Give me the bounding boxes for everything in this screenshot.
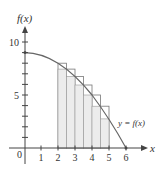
x-tick-6: 6 [124, 152, 129, 163]
y-axis [22, 26, 28, 164]
x-tick-2: 2 [56, 152, 61, 163]
x-axis-label: x [149, 142, 155, 154]
x-axis-arrow-icon [141, 145, 148, 151]
x-tick-5: 5 [107, 152, 112, 163]
curve-label: y = f(x) [117, 118, 145, 128]
x-tick-1: 1 [39, 152, 44, 163]
rectangles [58, 63, 109, 148]
x-tick-3: 3 [73, 152, 78, 163]
riemann-sum-diagram: f(x) x 0 1 2 3 4 5 6 5 10 y = f(x) [0, 0, 162, 178]
y-tick-5: 5 [14, 90, 19, 101]
y-axis-label: f(x) [17, 12, 33, 25]
x-tick-4: 4 [90, 152, 95, 163]
origin-label: 0 [17, 149, 22, 160]
y-tick-10: 10 [9, 37, 19, 48]
y-axis-arrow-icon [22, 26, 28, 33]
